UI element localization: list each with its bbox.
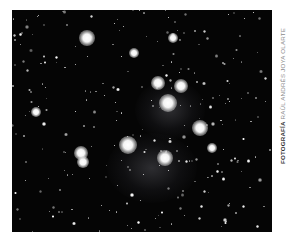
star xyxy=(93,126,94,127)
star xyxy=(59,189,61,191)
star xyxy=(229,101,230,102)
star xyxy=(88,217,89,218)
star xyxy=(233,12,235,14)
star xyxy=(239,35,241,37)
star xyxy=(14,39,16,41)
star xyxy=(13,34,16,37)
star xyxy=(52,215,54,217)
star xyxy=(171,61,173,63)
star xyxy=(169,138,170,139)
star xyxy=(228,14,229,15)
bright-star xyxy=(151,76,165,90)
star xyxy=(12,85,14,87)
star xyxy=(71,209,72,210)
bright-star xyxy=(207,143,217,153)
star xyxy=(93,110,96,113)
star xyxy=(241,171,242,172)
star xyxy=(179,207,181,209)
star xyxy=(104,95,105,96)
star xyxy=(106,165,107,166)
bright-star xyxy=(174,79,188,93)
star xyxy=(162,65,163,66)
star xyxy=(165,74,167,76)
star xyxy=(222,177,225,180)
star xyxy=(25,161,28,164)
star xyxy=(208,177,209,178)
star xyxy=(219,95,220,96)
bright-star xyxy=(168,33,178,43)
star xyxy=(40,63,41,64)
star xyxy=(183,32,185,34)
star xyxy=(165,10,166,11)
star xyxy=(87,56,88,57)
star xyxy=(194,72,195,73)
star xyxy=(115,102,116,103)
star xyxy=(269,149,271,151)
star xyxy=(225,103,226,104)
star xyxy=(258,178,262,182)
star xyxy=(227,98,230,101)
star xyxy=(184,215,185,216)
star xyxy=(65,152,66,153)
star xyxy=(235,119,236,120)
star xyxy=(20,44,21,45)
star xyxy=(179,39,181,41)
star xyxy=(56,62,57,63)
star xyxy=(203,30,206,33)
star xyxy=(44,61,47,64)
star xyxy=(72,174,73,175)
star xyxy=(200,205,202,207)
star xyxy=(177,30,178,31)
star xyxy=(157,41,158,42)
star xyxy=(19,218,21,220)
star xyxy=(253,12,254,13)
star xyxy=(235,212,237,214)
star xyxy=(227,204,230,207)
star xyxy=(242,138,244,140)
bright-star xyxy=(192,120,208,136)
star xyxy=(30,91,31,92)
star-cluster-photo xyxy=(12,10,272,232)
star xyxy=(29,111,30,112)
star xyxy=(64,67,66,69)
star xyxy=(259,70,263,74)
star xyxy=(85,90,86,91)
star xyxy=(112,44,114,46)
star xyxy=(202,82,205,85)
star xyxy=(203,190,206,193)
star xyxy=(233,58,234,59)
star xyxy=(90,91,91,92)
star xyxy=(220,120,222,122)
star xyxy=(216,170,218,172)
star xyxy=(209,105,212,108)
star xyxy=(187,68,190,71)
star xyxy=(257,52,258,53)
star xyxy=(25,180,26,181)
star xyxy=(39,190,42,193)
star xyxy=(257,116,259,118)
star xyxy=(15,133,17,135)
star xyxy=(13,18,14,19)
star xyxy=(22,60,25,63)
star xyxy=(166,31,169,34)
star xyxy=(52,206,54,208)
star xyxy=(49,211,50,212)
star xyxy=(121,112,123,114)
bright-star xyxy=(159,94,177,112)
star xyxy=(42,83,43,84)
star xyxy=(25,115,26,116)
star xyxy=(155,218,157,220)
star xyxy=(16,208,19,211)
star xyxy=(55,56,58,59)
star xyxy=(159,227,161,229)
star xyxy=(29,49,32,52)
star xyxy=(179,72,180,73)
bright-star xyxy=(79,30,95,46)
star xyxy=(159,165,160,166)
star xyxy=(131,228,132,229)
star xyxy=(127,166,128,167)
star xyxy=(99,230,100,231)
star xyxy=(235,49,238,52)
star xyxy=(181,193,184,196)
star xyxy=(202,99,203,100)
